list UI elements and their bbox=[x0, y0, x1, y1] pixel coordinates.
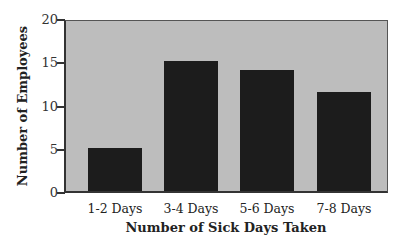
bar bbox=[240, 70, 294, 191]
y-tick-label: 15 bbox=[41, 56, 58, 69]
y-tick-label: 0 bbox=[50, 186, 58, 199]
y-tick bbox=[57, 106, 65, 108]
y-tick bbox=[57, 149, 65, 151]
bar-chart: Number of Sick Days Taken Number of Empl… bbox=[0, 0, 403, 242]
x-tick-label: 3-4 Days bbox=[151, 201, 231, 216]
y-tick-label: 5 bbox=[50, 143, 58, 156]
x-tick-label: 7-8 Days bbox=[304, 201, 384, 216]
x-axis-title: Number of Sick Days Taken bbox=[64, 220, 388, 235]
y-axis-title: Number of Employees bbox=[15, 26, 30, 186]
y-tick bbox=[57, 19, 65, 21]
plot-area bbox=[64, 20, 388, 193]
bar bbox=[317, 92, 371, 191]
x-tick-label: 1-2 Days bbox=[75, 201, 155, 216]
y-tick-label: 10 bbox=[41, 100, 58, 113]
x-tick-label: 5-6 Days bbox=[227, 201, 307, 216]
bar bbox=[88, 148, 142, 191]
y-tick bbox=[57, 192, 65, 194]
y-tick-label: 20 bbox=[41, 13, 58, 26]
bar bbox=[164, 61, 218, 191]
y-tick bbox=[57, 62, 65, 64]
